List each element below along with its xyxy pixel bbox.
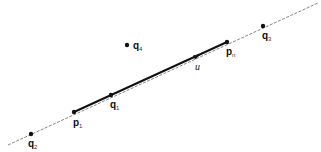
label-q1: q1	[110, 99, 120, 111]
point-q4	[125, 43, 129, 47]
point-q3	[261, 24, 265, 28]
point-q2	[29, 132, 33, 136]
point-p1	[72, 110, 76, 114]
label-p1: p1	[73, 117, 83, 129]
supporting-line	[8, 3, 318, 145]
point-q1	[109, 93, 113, 97]
label-u: u	[195, 61, 200, 72]
segment-p1-pn	[74, 42, 227, 112]
point-pn	[225, 40, 229, 44]
label-q2: q2	[28, 138, 38, 150]
label-q3: q3	[262, 30, 272, 42]
label-pn: pn	[226, 46, 235, 58]
geometry-diagram: q4 pn q3 p1 q1 q2 u	[0, 0, 321, 152]
label-q4: q4	[133, 40, 143, 52]
